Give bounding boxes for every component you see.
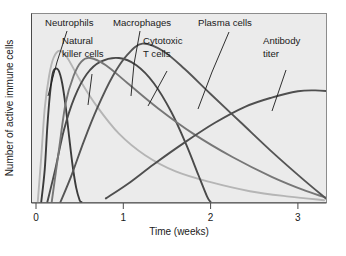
- series-label-line: Antibody: [263, 35, 301, 46]
- series-label-line: killer cells: [62, 48, 104, 59]
- x-tick-label: 0: [33, 212, 39, 223]
- immune-response-figure: NeutrophilsNaturalkiller cellsMacrophage…: [0, 0, 346, 256]
- series-label-line: T cells: [143, 48, 171, 59]
- series-label-line: Neutrophils: [45, 17, 94, 28]
- x-tick-label: 2: [208, 212, 214, 223]
- series-label-neutrophils: Neutrophils: [45, 17, 94, 28]
- y-axis-title: Number of active immune cells: [4, 40, 15, 177]
- x-tick-label: 1: [121, 212, 127, 223]
- series-label-line: Plasma cells: [198, 17, 252, 28]
- series-label-line: titer: [263, 48, 280, 59]
- series-label-line: Natural: [62, 35, 93, 46]
- series-label-plasma-cells: Plasma cells: [198, 17, 252, 28]
- series-label-line: Cytotoxic: [143, 35, 183, 46]
- x-axis-title: Time (weeks): [149, 226, 209, 237]
- series-label-line: Macrophages: [113, 17, 171, 28]
- immune-response-chart: NeutrophilsNaturalkiller cellsMacrophage…: [0, 0, 346, 256]
- series-label-macrophages: Macrophages: [113, 17, 171, 28]
- x-tick-label: 3: [295, 212, 301, 223]
